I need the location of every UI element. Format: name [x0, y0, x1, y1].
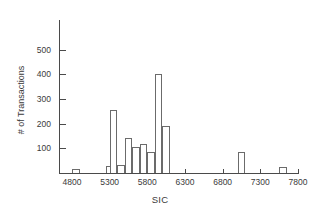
x-tick	[223, 169, 224, 174]
y-tick-label: 200	[25, 120, 51, 129]
x-tick	[298, 169, 299, 174]
histogram-bar	[117, 165, 125, 173]
histogram-bar	[72, 169, 80, 173]
histogram-bar	[155, 74, 163, 173]
histogram-bar	[140, 144, 148, 173]
x-tick-label: 5300	[90, 178, 130, 187]
x-axis-title: SIC	[0, 194, 320, 205]
y-axis-line	[59, 20, 60, 174]
histogram-bar	[125, 138, 133, 173]
x-tick-label: 4800	[52, 178, 92, 187]
y-axis-title: # of Transactions	[16, 35, 26, 165]
y-tick-label: 100	[25, 144, 51, 153]
y-tick	[60, 148, 66, 149]
y-axis-title-container: # of Transactions	[8, 35, 22, 145]
x-axis-line	[59, 173, 299, 174]
y-tick	[60, 74, 66, 75]
histogram-bar	[279, 167, 287, 173]
histogram-bar	[132, 147, 140, 173]
x-tick-label: 7800	[278, 178, 318, 187]
x-tick-label: 6800	[203, 178, 243, 187]
x-tick-label: 6300	[165, 178, 205, 187]
y-tick	[60, 99, 66, 100]
histogram-bar	[238, 152, 246, 173]
x-tick-label: 7300	[240, 178, 280, 187]
histogram-chart: 100200300400500 480053005800630068007300…	[0, 0, 320, 223]
y-tick	[60, 50, 66, 51]
y-tick-label: 500	[25, 46, 51, 55]
histogram-bar	[110, 110, 118, 173]
histogram-bar	[162, 126, 170, 173]
x-tick	[185, 169, 186, 174]
y-tick-label: 400	[25, 70, 51, 79]
x-tick	[260, 169, 261, 174]
histogram-bar	[147, 152, 155, 173]
x-tick-label: 5800	[127, 178, 167, 187]
y-tick-label: 300	[25, 95, 51, 104]
y-tick	[60, 124, 66, 125]
